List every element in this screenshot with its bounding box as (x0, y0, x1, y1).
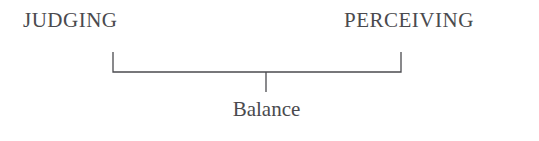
center-caption-balance: Balance (0, 97, 539, 122)
pole-label-judging: JUDGING (23, 8, 118, 32)
bracket-span-path (113, 52, 401, 72)
center-caption-text: Balance (233, 97, 301, 121)
continuum-diagram: JUDGING PERCEIVING Balance (0, 0, 539, 141)
pole-label-perceiving: PERCEIVING (344, 8, 474, 32)
